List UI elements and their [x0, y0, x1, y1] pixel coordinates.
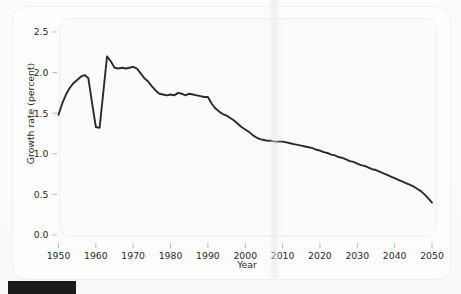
y-tick-label: 2.0: [34, 67, 49, 78]
x-tick-label: 2040: [383, 250, 407, 261]
x-tick-label: 1970: [121, 250, 145, 261]
x-axis-title: Year: [236, 259, 257, 270]
x-tick-label: 1950: [47, 250, 71, 261]
figure-canvas: Growth rate (percent) 0.00.51.01.52.02.5…: [0, 0, 461, 294]
x-tick-label: 1980: [159, 250, 183, 261]
y-axis-ticks: 0.00.51.01.52.02.5: [34, 26, 57, 240]
x-tick-label: 1960: [84, 250, 108, 261]
x-tick-label: 2010: [271, 250, 295, 261]
x-tick-label: 1990: [196, 250, 220, 261]
y-tick-label: 2.5: [34, 26, 49, 37]
x-tick-label: 2050: [420, 250, 444, 261]
y-tick-label: 0.0: [34, 229, 49, 240]
y-tick-label: 1.0: [34, 148, 49, 159]
x-tick-label: 2030: [345, 250, 369, 261]
line-chart: 0.00.51.01.52.02.5 195019601970198019902…: [0, 0, 461, 294]
y-tick-label: 0.5: [34, 189, 49, 200]
y-tick-label: 1.5: [34, 108, 49, 119]
x-tick-label: 2020: [308, 250, 332, 261]
scan-artifact-bar: [8, 281, 76, 294]
growth-rate-line: [59, 56, 433, 202]
